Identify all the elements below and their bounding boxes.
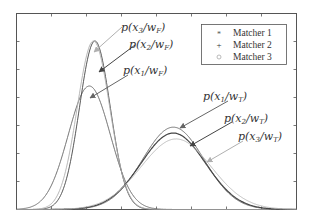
arrow-f3 <box>94 27 122 52</box>
label-p-x2-wF: p(x2/wF) <box>129 38 173 52</box>
arrow-t1 <box>180 101 228 128</box>
legend-label: Matcher 2 <box>233 40 272 50</box>
plus-marker-icon: + <box>216 40 221 50</box>
legend-label: Matcher 3 <box>233 52 272 62</box>
label-p-x2-wT: p(x2/wT) <box>224 112 268 126</box>
asterisk-marker-icon: * <box>217 30 221 39</box>
arrow-t3 <box>207 141 243 162</box>
arrow-t2 <box>190 122 232 146</box>
label-p-x1-wT: p(x1/wT) <box>203 90 247 104</box>
label-p-x3-wT: p(x3/wT) <box>238 130 282 144</box>
density-chart: p(x3/wF) p(x2/wF) p(x1/wF) p(x1/wT) p(x2… <box>0 0 311 220</box>
label-p-x3-wF: p(x3/wF) <box>121 21 165 35</box>
legend-label: Matcher 1 <box>233 28 272 38</box>
curve-p-x1-wF- <box>17 86 297 210</box>
arrow-f1 <box>90 75 128 98</box>
legend: * Matcher 1 + Matcher 2 Matcher 3 <box>202 25 287 65</box>
curve-p-x2-wT- <box>17 133 297 209</box>
label-p-x1-wF: p(x1/wF) <box>123 64 167 78</box>
